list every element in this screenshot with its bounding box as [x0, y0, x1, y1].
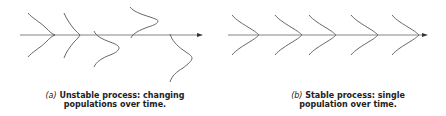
distribution-curves [28, 7, 192, 82]
distribution-curve [64, 13, 80, 58]
panel-stable-process: (b) Stable process: single population ov… [223, 0, 446, 116]
caption-stable-process: (b) Stable process: single population ov… [283, 91, 413, 109]
caption-line-1: Unstable process: changing [59, 91, 184, 100]
panel-label: (a) [45, 91, 56, 100]
caption-line-2: population over time. [283, 100, 413, 109]
panel-unstable-process: (a) Unstable process: changing populatio… [0, 0, 223, 116]
caption-line-2: populations over time. [40, 100, 190, 109]
caption-unstable-process: (a) Unstable process: changing populatio… [40, 91, 190, 109]
distribution-curve [130, 7, 158, 38]
caption-line-1: Stable process: single [305, 91, 405, 100]
panel-label: (b) [291, 91, 302, 100]
axis-arrowhead-icon [197, 33, 203, 37]
distribution-curve [170, 34, 192, 82]
axis-arrowhead-icon [422, 33, 428, 37]
distribution-curve [94, 31, 119, 67]
